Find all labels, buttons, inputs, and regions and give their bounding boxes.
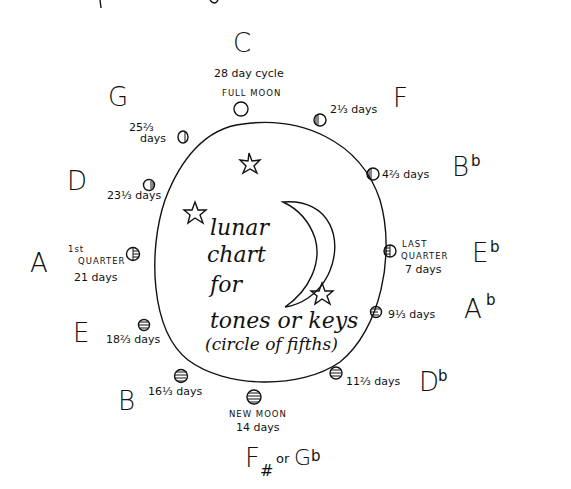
days-11-2-3: 11⅔ days <box>346 375 400 388</box>
title-line-tones-or-keys: tones or keys <box>210 308 358 333</box>
new-moon-icon <box>247 390 261 404</box>
phase-label-full-moon: FULL MOON <box>222 88 281 98</box>
key-b-flat-accidental: b <box>471 152 481 170</box>
title-line-for: for <box>208 272 243 297</box>
key-g-flat-accidental: b <box>311 447 321 465</box>
waxing-crescent-icon <box>139 320 150 331</box>
stray-ink-mark <box>100 0 101 8</box>
title-line-chart: chart <box>207 242 266 267</box>
key-d-flat: D <box>419 367 439 397</box>
days-21: 21 days <box>74 271 118 284</box>
days-23-1-3: 23⅓ days <box>107 189 161 202</box>
key-or-label: or <box>276 451 290 466</box>
key-b: B <box>118 386 135 416</box>
first-quarter-moon-icon <box>127 248 140 261</box>
days-9-1-3: 9⅓ days <box>388 308 435 321</box>
key-f-sharp: F <box>245 443 260 473</box>
phase-label-quarter: QUARTER <box>78 256 125 266</box>
days-7: 7 days <box>405 263 442 276</box>
star-icon <box>240 153 260 173</box>
phase-label-1st: 1st <box>68 244 84 254</box>
waxing-gibbous-icon <box>178 131 188 143</box>
key-a-flat: A <box>464 294 482 324</box>
key-e-flat: E <box>472 238 488 268</box>
title-line-lunar: lunar <box>210 215 270 240</box>
key-d-flat-accidental: b <box>438 367 448 385</box>
key-e-flat-accidental: b <box>490 238 500 256</box>
full-moon-icon <box>234 102 248 116</box>
title-line-circle-of-fifths: (circle of fifths) <box>205 334 338 354</box>
days-14: 14 days <box>236 421 280 434</box>
key-b-flat: B <box>452 152 469 182</box>
days-2-1-3: 2⅓ days <box>330 103 377 116</box>
key-c: C <box>233 28 251 58</box>
waning-crescent-icon <box>330 367 342 379</box>
waning-gibbous-icon <box>367 168 379 180</box>
phase-label-new-moon: NEW MOON <box>229 409 287 419</box>
key-f-sharp-accidental: # <box>260 461 273 480</box>
star-icon <box>184 202 206 223</box>
key-g-flat: G <box>294 445 311 470</box>
phase-label-last: LAST <box>402 239 427 249</box>
days-18-2-3: 18⅔ days <box>106 333 160 346</box>
key-g: G <box>108 82 128 112</box>
star-icon <box>311 283 333 304</box>
last-quarter-moon-icon <box>384 245 396 257</box>
key-f: F <box>393 83 408 113</box>
key-a-flat-accidental: b <box>486 291 496 309</box>
key-d: D <box>67 166 87 196</box>
waxing-crescent-icon <box>175 370 188 383</box>
stray-ink-mark <box>210 0 218 3</box>
cycle-label: 28 day cycle <box>214 67 284 80</box>
lunar-chart-diagram: lunar chart for tones or keys (circle of… <box>0 0 571 489</box>
key-a: A <box>30 248 48 278</box>
phase-label-quarter: QUARTER <box>401 251 448 261</box>
days-4-2-3: 4⅔ days <box>382 168 429 181</box>
waning-gibbous-icon <box>314 114 326 126</box>
key-e: E <box>73 318 89 348</box>
days-25-2-3-unit: days <box>140 132 166 145</box>
days-16-1-3: 16⅓ days <box>148 385 202 398</box>
